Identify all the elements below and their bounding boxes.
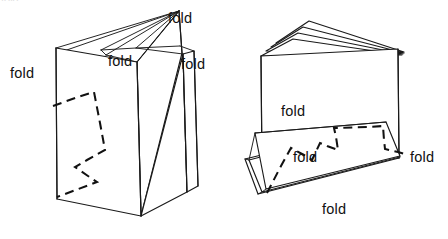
- right-figure-group: [245, 21, 408, 194]
- left-front-panel: [56, 48, 141, 216]
- fold-label-left-outer: fold: [10, 66, 34, 81]
- left-fan-panels: [137, 11, 198, 216]
- folded-paper-figure: fold: [0, 0, 448, 239]
- left-figure-group: [53, 11, 198, 216]
- fold-label-left-top: fold: [168, 11, 192, 26]
- fold-label-left-middle: fold: [108, 54, 132, 69]
- fold-label-left-right: fold: [181, 57, 205, 72]
- right-lower-flap-front: [255, 122, 400, 189]
- fold-label-right-upper: fold: [281, 104, 305, 119]
- fold-label-right-lower: fold: [322, 202, 346, 217]
- left-fan-edge-12: [101, 50, 106, 55]
- right-lower-flaps: [245, 122, 400, 194]
- fold-label-right-edge: fold: [410, 150, 434, 165]
- fold-label-right-inner: fold: [293, 150, 317, 165]
- diagram-canvas: [0, 0, 448, 239]
- right-flap-edge-1: [249, 133, 255, 160]
